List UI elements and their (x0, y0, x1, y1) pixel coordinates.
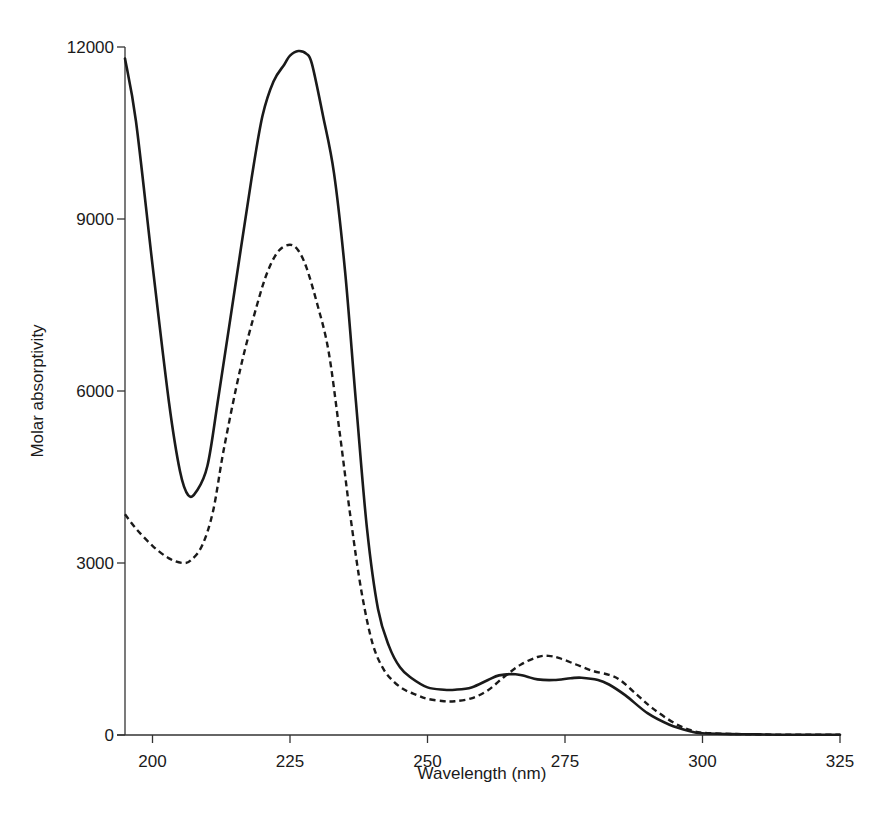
x-tick-label: 200 (138, 752, 166, 771)
x-tick-label: 300 (688, 752, 716, 771)
y-tick-label: 6000 (76, 382, 114, 401)
x-axis-title: Wavelength (nm) (418, 764, 547, 783)
spectrum-chart: 030006000900012000 200225250275300325 Wa… (0, 0, 881, 828)
y-tick-label: 9000 (76, 210, 114, 229)
dashed-spectrum-line (125, 245, 840, 735)
y-tick-label: 3000 (76, 554, 114, 573)
y-tick-label: 12000 (67, 38, 114, 57)
plot-area: 030006000900012000 200225250275300325 (67, 38, 854, 771)
x-tick-label: 275 (551, 752, 579, 771)
y-ticks: 030006000900012000 (67, 38, 125, 745)
y-axis-title: Molar absorptivity (28, 324, 47, 458)
solid-spectrum-line (125, 51, 840, 735)
y-tick-label: 0 (105, 726, 114, 745)
x-tick-label: 225 (276, 752, 304, 771)
x-tick-label: 325 (826, 752, 854, 771)
